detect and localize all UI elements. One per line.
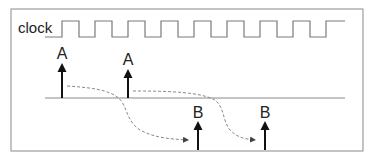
event-b-label: B xyxy=(260,104,271,121)
event-a-label: A xyxy=(57,45,68,62)
arrow-up-icon xyxy=(58,63,67,72)
event-b-1: B xyxy=(193,104,204,150)
clock-label: clock xyxy=(18,19,53,36)
event-b-2: B xyxy=(260,104,271,150)
clock-domain-crossing-diagram: clock A A B B xyxy=(0,0,372,160)
event-b-label: B xyxy=(193,104,204,121)
clock-waveform xyxy=(45,21,345,37)
arrow-up-icon xyxy=(194,121,203,130)
event-a-1: A xyxy=(57,45,68,98)
arrow-up-icon xyxy=(124,69,133,78)
event-a-label: A xyxy=(123,51,134,68)
arrow-up-icon xyxy=(261,121,270,130)
event-a-2: A xyxy=(123,51,134,98)
